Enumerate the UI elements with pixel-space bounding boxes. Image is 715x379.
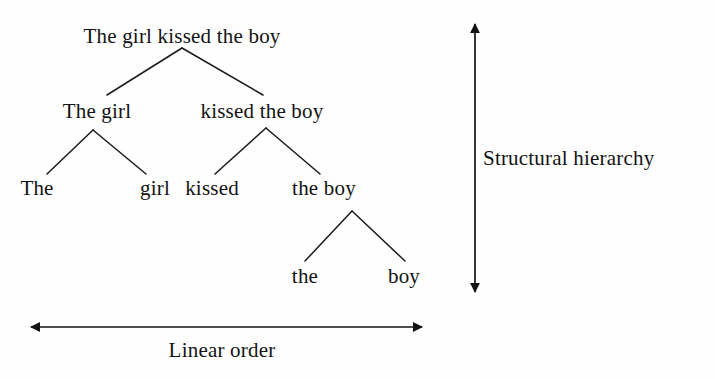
- tree-node-noun-girl: girl: [140, 177, 170, 199]
- tree-node-root: The girl kissed the boy: [83, 25, 280, 47]
- branch-root-to-np-subject: [107, 48, 182, 95]
- branch-vp-to-np-object: [266, 128, 320, 174]
- tree-node-det-the-2: the: [292, 265, 318, 287]
- tree-node-verb-kissed: kissed: [185, 177, 239, 199]
- tree-node-noun-boy: boy: [388, 265, 420, 287]
- branch-np-object-to-noun-boy: [352, 211, 405, 261]
- branch-np-object-to-det-the-2: [305, 211, 352, 261]
- tree-branch-lines: [0, 0, 715, 379]
- syntax-tree-figure: The girl kissed the boyThe girlkissed th…: [0, 0, 715, 379]
- tree-node-det-the-1: The: [20, 177, 53, 199]
- tree-node-np-object: the boy: [292, 177, 356, 199]
- branch-root-to-vp: [182, 48, 263, 95]
- tree-node-vp: kissed the boy: [201, 100, 324, 122]
- linear-order-label: Linear order: [169, 339, 276, 361]
- branch-np-subject-to-noun-girl: [93, 130, 146, 174]
- branch-np-subject-to-det-the-1: [47, 130, 93, 174]
- branch-vp-to-verb-kissed: [215, 128, 266, 174]
- tree-node-np-subject: The girl: [63, 100, 132, 122]
- structural-hierarchy-label: Structural hierarchy: [483, 147, 654, 169]
